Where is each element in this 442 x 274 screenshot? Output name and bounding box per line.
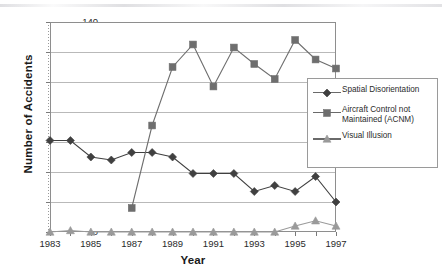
square-marker [169, 64, 176, 71]
diamond-marker [128, 149, 136, 157]
legend-label-line2: Maintained (ACNM) [342, 115, 414, 125]
diamond-icon [312, 86, 342, 98]
square-marker [128, 205, 135, 212]
legend-label-line1: Visual Illusion [342, 131, 392, 141]
square-marker [251, 61, 258, 68]
series-line [132, 40, 336, 208]
chart-legend: Spatial DisorientationAircraft Control n… [307, 78, 438, 168]
square-marker [333, 65, 340, 72]
diamond-marker [107, 156, 115, 164]
legend-item: Visual Illusion [312, 131, 433, 144]
square-marker [230, 44, 237, 51]
square-marker [149, 122, 156, 129]
square-marker [271, 76, 278, 83]
legend-label: Aircraft Control notMaintained (ACNM) [342, 105, 414, 124]
square-marker [292, 37, 299, 44]
triangle-icon [312, 132, 342, 144]
legend-label-line1: Spatial Disorientation [342, 85, 419, 95]
square-marker [210, 83, 217, 90]
diamond-marker [323, 89, 331, 97]
square-marker [324, 110, 331, 117]
triangle-marker [323, 135, 331, 142]
diamond-marker [148, 149, 156, 157]
square-marker [312, 56, 319, 63]
triangle-marker [312, 217, 320, 224]
diamond-marker [271, 182, 279, 190]
legend-label: Visual Illusion [342, 131, 392, 141]
square-marker [190, 41, 197, 48]
diamond-marker [46, 137, 54, 145]
legend-label-line1: Aircraft Control not [342, 105, 414, 115]
diamond-marker [209, 170, 217, 178]
square-icon [312, 106, 342, 118]
legend-label: Spatial Disorientation [342, 85, 419, 95]
triangle-marker [66, 227, 74, 234]
legend-item: Spatial Disorientation [312, 85, 433, 98]
diamond-marker [291, 188, 299, 196]
chart-canvas: Number of Accidents Year 020406080100120… [0, 0, 442, 274]
legend-item: Aircraft Control notMaintained (ACNM) [312, 105, 433, 124]
